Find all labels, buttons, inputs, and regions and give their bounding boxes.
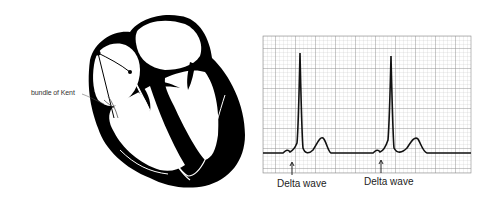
- delta-wave-label-2: Delta wave: [364, 176, 413, 187]
- delta-wave-label-1: Delta wave: [277, 178, 326, 189]
- ecg-strip: [255, 28, 480, 178]
- heart-diagram: [0, 0, 250, 197]
- bundle-of-kent-label: bundle of Kent: [31, 89, 75, 96]
